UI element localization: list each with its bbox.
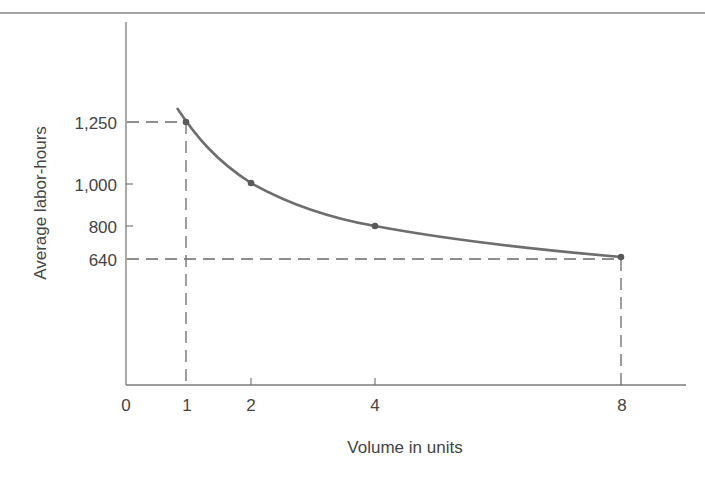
y-ticks [126, 184, 133, 226]
y-axis-title: Average labor-hours [31, 126, 50, 280]
data-points [183, 119, 625, 261]
data-point-2 [248, 180, 255, 187]
data-point-8 [618, 254, 625, 261]
y-tick-label-640: 640 [89, 251, 117, 270]
data-point-4 [372, 223, 379, 230]
x-tick-label-1: 1 [182, 396, 191, 415]
y-tick-label-800: 800 [89, 218, 117, 237]
x-axis-title: Volume in units [347, 438, 462, 457]
data-point-1 [183, 119, 190, 126]
learning-curve-chart: 1,250 1,000 800 640 0 1 2 4 8 Volume in … [0, 0, 705, 486]
x-ticks [251, 378, 375, 385]
x-tick-label-4: 4 [370, 396, 379, 415]
x-tick-label-8: 8 [617, 396, 626, 415]
x-tick-label-0: 0 [121, 396, 130, 415]
learning-curve-line [177, 108, 621, 257]
y-tick-label-1250: 1,250 [74, 114, 117, 133]
reference-lines [127, 122, 621, 385]
x-tick-label-2: 2 [246, 396, 255, 415]
y-tick-label-1000: 1,000 [74, 176, 117, 195]
